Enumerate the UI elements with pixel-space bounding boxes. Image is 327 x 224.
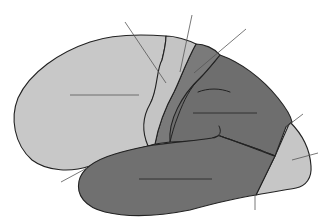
brain-lateral-diagram xyxy=(0,0,327,224)
